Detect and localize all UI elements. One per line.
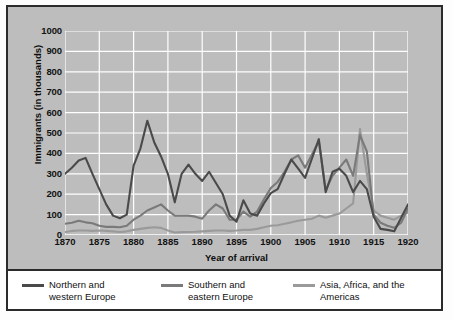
x-tick-label: 1895 <box>226 237 247 247</box>
plot-area <box>65 31 408 235</box>
y-tick-label: 800 <box>46 67 62 77</box>
x-tick-label: 1920 <box>397 237 418 247</box>
x-axis-title: Year of arrival <box>65 252 408 263</box>
y-tick-label: 300 <box>46 169 62 179</box>
legend-item[interactable]: Asia, Africa, and the Americas <box>293 279 441 302</box>
screenshot-root: Immigrants (in thousands) 01002003004005… <box>0 0 453 320</box>
legend-swatch-icon <box>161 284 183 287</box>
chart-region: Immigrants (in thousands) 01002003004005… <box>8 7 441 269</box>
x-tick-label: 1880 <box>123 237 144 247</box>
x-tick-label: 1905 <box>295 237 316 247</box>
x-tick-label: 1915 <box>363 237 384 247</box>
y-tick-label: 500 <box>46 128 62 138</box>
y-tick-label: 700 <box>46 87 62 97</box>
chart-card: Immigrants (in thousands) 01002003004005… <box>6 5 443 311</box>
legend-swatch-icon <box>293 284 315 287</box>
x-tick-label: 1870 <box>54 237 75 247</box>
x-tick-label: 1890 <box>192 237 213 247</box>
legend-label: Southern and eastern Europe <box>188 279 253 302</box>
chart-legend: Northern and western EuropeSouthern and … <box>8 269 441 309</box>
y-tick-label: 1000 <box>41 26 62 36</box>
y-axis-ticks: 01002003004005006007008009001000 <box>20 31 62 235</box>
y-tick-label: 600 <box>46 108 62 118</box>
x-tick-label: 1885 <box>157 237 178 247</box>
legend-label: Asia, Africa, and the Americas <box>320 279 441 302</box>
x-tick-label: 1910 <box>329 237 350 247</box>
line-chart-svg <box>65 31 408 235</box>
y-tick-label: 900 <box>46 46 62 56</box>
y-tick-label: 200 <box>46 189 62 199</box>
legend-label: Northern and western Europe <box>49 279 116 302</box>
x-tick-label: 1875 <box>89 237 110 247</box>
y-tick-label: 100 <box>46 210 62 220</box>
legend-item[interactable]: Southern and eastern Europe <box>161 279 253 302</box>
x-axis-ticks: 1870187518801885189018951900190519101915… <box>65 237 408 251</box>
legend-items: Northern and western EuropeSouthern and … <box>8 271 441 309</box>
legend-swatch-icon <box>22 284 44 287</box>
legend-item[interactable]: Northern and western Europe <box>22 279 116 302</box>
x-tick-label: 1900 <box>260 237 281 247</box>
y-tick-label: 400 <box>46 148 62 158</box>
